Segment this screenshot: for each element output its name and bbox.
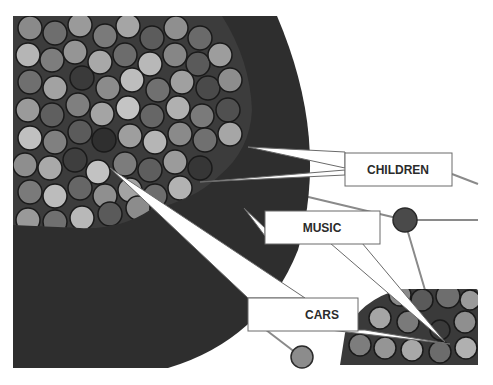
callout-label: CARS xyxy=(305,308,339,322)
callout-label: CHILDREN xyxy=(367,163,429,177)
network-node xyxy=(291,346,313,368)
small-cluster xyxy=(340,284,480,365)
network-node xyxy=(393,208,417,232)
callout-label: MUSIC xyxy=(303,221,342,235)
network-cluster-diagram: CHILDREN MUSIC CARS xyxy=(0,0,493,385)
